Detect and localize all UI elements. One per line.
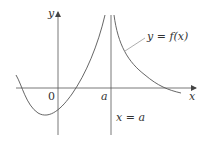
curve-right-branch <box>114 15 181 93</box>
a-tick-label: a <box>101 90 108 103</box>
curve-left-branch <box>16 15 105 115</box>
asymptote-label: x = a <box>116 111 145 124</box>
function-graph: y x 0 a x = a y = f(x) <box>0 0 205 147</box>
y-axis-label: y <box>47 7 55 20</box>
origin-label: 0 <box>48 90 55 103</box>
x-axis-label: x <box>189 90 196 103</box>
curve-label: y = f(x) <box>146 30 188 43</box>
curve-label-leader <box>125 38 145 51</box>
